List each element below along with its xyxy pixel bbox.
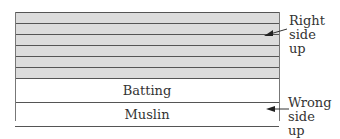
batting-layer: Batting: [15, 78, 279, 102]
quilt-layer-stack: Batting Muslin: [15, 12, 279, 127]
fabric-strip-4: [15, 45, 279, 56]
right-side-up-label: Right side up: [289, 14, 325, 56]
muslin-layer: Muslin: [15, 102, 279, 127]
wrong-side-up-label: Wrong side up: [288, 96, 332, 138]
fabric-strip-5: [15, 56, 279, 67]
batting-label: Batting: [123, 83, 172, 98]
wrong-side-up-arrow-icon: [264, 104, 290, 114]
muslin-label: Muslin: [124, 107, 169, 122]
fabric-strip-6: [15, 67, 279, 78]
fabric-strip-1: [15, 12, 279, 23]
fabric-strip-2: [15, 23, 279, 34]
right-side-up-arrow-icon: [262, 26, 288, 40]
fabric-strip-3: [15, 34, 279, 45]
